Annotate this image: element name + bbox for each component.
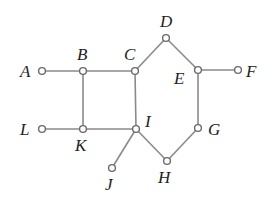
node-g [195, 125, 202, 132]
node-label-d: D [159, 12, 173, 31]
edges-layer [42, 38, 238, 168]
edge-c-d [135, 38, 166, 71]
node-k [80, 126, 87, 133]
node-d [163, 35, 170, 42]
node-f [235, 67, 242, 74]
node-l [39, 126, 46, 133]
node-label-k: K [74, 136, 88, 155]
node-label-f: F [245, 62, 257, 81]
node-label-g: G [208, 120, 220, 139]
node-label-j: J [105, 175, 114, 194]
node-a [39, 68, 46, 75]
graph-diagram: ABCDEFGHIJKL [0, 0, 277, 200]
node-j [109, 165, 116, 172]
edge-i-j [112, 129, 136, 168]
edge-h-i [136, 129, 167, 161]
node-label-a: A [19, 62, 31, 81]
node-i [133, 126, 140, 133]
node-label-h: H [157, 168, 172, 187]
node-e [195, 67, 202, 74]
node-label-b: B [77, 45, 88, 64]
edge-d-e [166, 38, 198, 70]
labels-layer: ABCDEFGHIJKL [19, 12, 257, 194]
node-h [164, 158, 171, 165]
node-label-c: C [124, 45, 136, 64]
edge-i-c [135, 71, 136, 129]
node-b [80, 68, 87, 75]
edge-g-h [167, 128, 198, 161]
node-label-e: E [173, 69, 185, 88]
nodes-layer [39, 35, 242, 172]
node-c [132, 68, 139, 75]
node-label-l: L [19, 120, 29, 139]
node-label-i: I [144, 112, 152, 131]
